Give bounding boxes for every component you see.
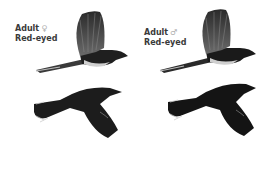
bird-female-underside-illustration [34,88,122,138]
bird-male-upperside-illustration [160,9,256,73]
bird-illustrations [0,0,271,172]
bird-female-upperside-illustration [36,11,128,73]
bird-male-underside-illustration [168,84,256,136]
